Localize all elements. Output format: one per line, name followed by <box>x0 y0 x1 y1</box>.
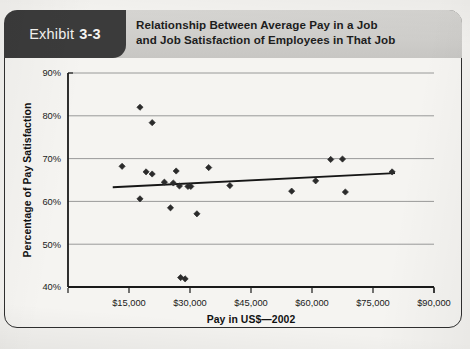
x-tick-marks <box>68 288 434 293</box>
x-axis-title: Pay in US$—2002 <box>207 314 296 325</box>
y-tick-labels: 40%50%60%70%80%90% <box>42 68 61 292</box>
data-point-marker <box>342 189 348 195</box>
data-point-marker <box>167 205 173 211</box>
data-point-marker <box>149 120 155 126</box>
x-tick-label: $90,000 <box>417 298 451 308</box>
data-point-marker <box>194 211 200 217</box>
data-point-marker <box>339 156 345 162</box>
data-point-marker <box>206 164 212 170</box>
x-tick-label: $45,000 <box>234 298 268 308</box>
data-point-marker <box>137 104 143 110</box>
data-point-marker <box>173 168 179 174</box>
data-point-marker <box>313 178 319 184</box>
data-point-marker <box>149 171 155 177</box>
x-tick-labels: $15,000$30,000$45,000$60,000$75,000$90,0… <box>112 298 451 308</box>
data-point-marker <box>143 169 149 175</box>
data-point-marker <box>328 156 334 162</box>
figure-page: Exhibit 3-3 Relationship Between Average… <box>0 0 470 349</box>
gridlines <box>68 73 434 244</box>
x-tick-label: $60,000 <box>295 298 329 308</box>
y-tick-label: 60% <box>42 197 61 207</box>
axis-lines <box>68 73 434 293</box>
data-points <box>119 104 395 282</box>
x-tick-label: $30,000 <box>173 298 207 308</box>
x-tick-label: $75,000 <box>356 298 390 308</box>
y-axis-title: Percentage of Pay Satisfaction <box>22 103 33 258</box>
y-tick-label: 70% <box>42 154 61 164</box>
y-tick-label: 40% <box>42 282 61 292</box>
y-tick-label: 50% <box>42 240 61 250</box>
x-tick-label: $15,000 <box>112 298 146 308</box>
data-point-marker <box>289 188 295 194</box>
scatter-plot: 40%50%60%70%80%90% $15,000$30,000$45,000… <box>0 0 470 349</box>
y-tick-label: 90% <box>42 68 61 78</box>
chart-canvas: 40%50%60%70%80%90% $15,000$30,000$45,000… <box>0 0 470 349</box>
data-point-marker <box>119 163 125 169</box>
y-tick-label: 80% <box>42 111 61 121</box>
data-point-marker <box>227 182 233 188</box>
trendline <box>113 173 395 187</box>
